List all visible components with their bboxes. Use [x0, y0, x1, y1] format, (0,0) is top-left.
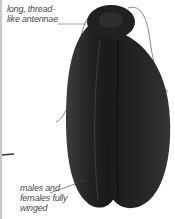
antennae-label-line-1: long, thread- — [7, 4, 67, 14]
wings-label-line-2: females fully — [20, 193, 80, 203]
wings-label: males and females fully winged — [20, 183, 80, 213]
dark-tick-mark — [2, 154, 14, 155]
antennae-label-line-2: like antennae — [7, 14, 67, 24]
antennae-label: long, thread- like antennae — [7, 4, 67, 24]
wings-label-line-3: winged — [20, 203, 80, 213]
wings-label-line-1: males and — [20, 183, 80, 193]
